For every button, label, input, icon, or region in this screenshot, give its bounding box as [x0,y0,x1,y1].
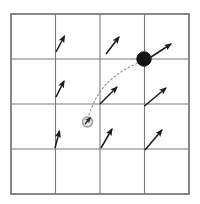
arrow-r1c3 [106,37,119,54]
arrow-r2c3 [100,87,117,104]
arrow-r2c4 [145,88,167,106]
goal-marker-filled-dot [137,52,151,66]
vector-field-canvas [0,0,200,204]
arrow-r3c4 [145,130,162,150]
arrow-r2c2 [56,81,64,97]
vector-field-arrows [55,36,171,150]
arrow-r1c2 [56,36,65,52]
arrow-r3c3 [101,129,112,148]
arrow-r1c4 [151,44,171,57]
vector-field-figure [0,0,200,204]
